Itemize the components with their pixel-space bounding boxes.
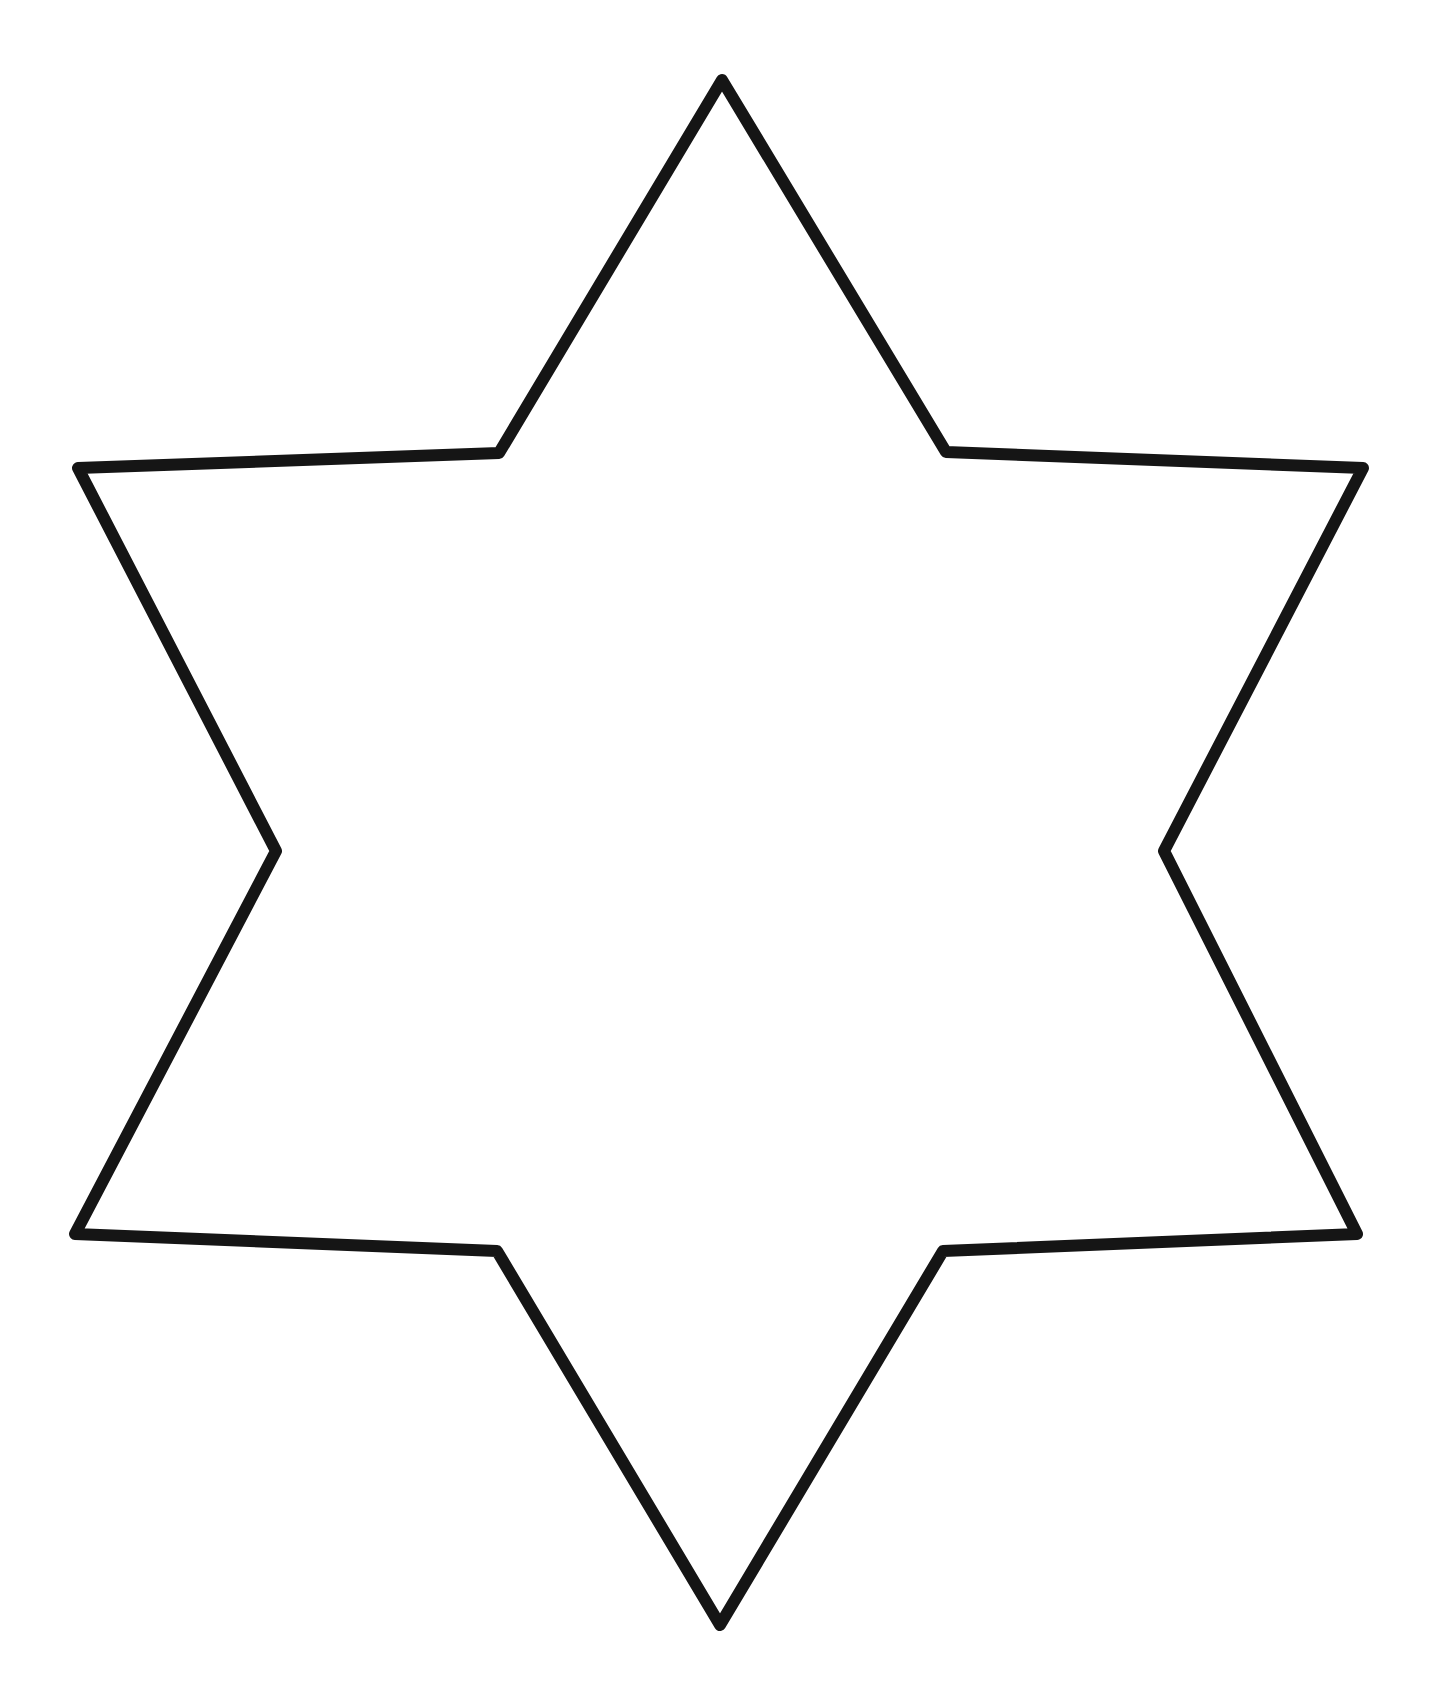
drawing-canvas (0, 0, 1447, 1698)
